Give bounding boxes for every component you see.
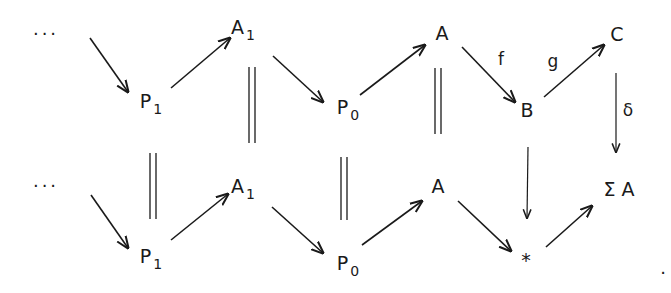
arrow-a1-to-p0-bot [272, 207, 323, 253]
node-p1-top: P1 [140, 92, 162, 116]
diagram-edges [0, 0, 671, 293]
label-delta: δ [623, 102, 633, 119]
arrow-ellipsis-to-p1-bot [91, 195, 128, 248]
equality-a [435, 68, 441, 134]
equality-p1 [150, 153, 156, 219]
arrow-p0-to-a-bot [362, 201, 422, 245]
equality-a1 [249, 67, 255, 143]
node-a1-bottom: A1 [231, 177, 255, 201]
node-c: C [610, 25, 623, 44]
node-a-top: A [436, 24, 449, 43]
node-a1-top: A1 [231, 18, 255, 42]
equality-p0 [341, 157, 347, 220]
node-b: B [520, 101, 533, 120]
node-star: * [521, 251, 531, 270]
arrow-a-to-star [458, 201, 511, 251]
arrow-star-to-sigma-a [546, 206, 592, 247]
ellipsis-top: ··· [33, 23, 59, 44]
label-f: f [498, 51, 504, 68]
commutative-diagram: ··· P1 A1 P0 A B C f g δ ··· P1 A1 P0 A … [0, 0, 671, 293]
node-p1-bottom: P1 [140, 247, 162, 271]
node-a-bottom: A [432, 177, 445, 196]
arrow-p1-to-a1-top [171, 38, 230, 88]
arrow-b-to-star [527, 147, 528, 218]
node-p0-bottom: P0 [337, 254, 359, 278]
arrow-p1-to-a1-bot [171, 194, 228, 240]
ellipsis-bottom: ··· [33, 175, 59, 196]
arrow-f-a-to-b [462, 47, 515, 102]
node-p0-top: P0 [337, 98, 359, 122]
node-sigma-a: Σ A [603, 180, 634, 199]
arrow-ellipsis-to-p1-top [90, 38, 128, 92]
arrow-p0-to-a-top [360, 45, 425, 95]
label-g: g [548, 53, 559, 70]
terminal-period: . [660, 259, 666, 277]
arrow-a1-to-p0-top [273, 56, 323, 102]
